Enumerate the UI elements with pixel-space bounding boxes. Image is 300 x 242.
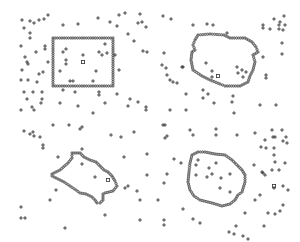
contour-point-marker [51, 175, 53, 177]
contour-point-marker [115, 182, 117, 184]
contour-point-marker [218, 33, 220, 35]
contour-point-marker [256, 48, 258, 50]
contour-point-marker [71, 157, 73, 159]
background [0, 0, 300, 242]
contour-point-marker [114, 180, 116, 182]
contour-point-marker [199, 34, 201, 36]
contour-point-marker [99, 202, 101, 204]
contour-point-marker [192, 44, 194, 46]
contour-point-marker [224, 85, 226, 87]
contour-point-marker [71, 154, 73, 156]
contour-point-marker [206, 33, 208, 35]
contour-point-marker [197, 34, 199, 36]
contour-point-marker [211, 33, 213, 35]
contour-point-marker [190, 156, 192, 158]
contour-point-marker [52, 39, 54, 41]
contour-point-marker [202, 33, 204, 35]
contour-point-marker [193, 41, 195, 43]
contour-point-marker [194, 49, 196, 51]
contour-point-marker [252, 56, 254, 58]
contour-point-marker [255, 46, 257, 48]
contour-point-marker [193, 46, 195, 48]
contour-point-marker [204, 33, 206, 35]
contour-point-marker [221, 84, 223, 86]
contour-diagram [0, 0, 300, 242]
